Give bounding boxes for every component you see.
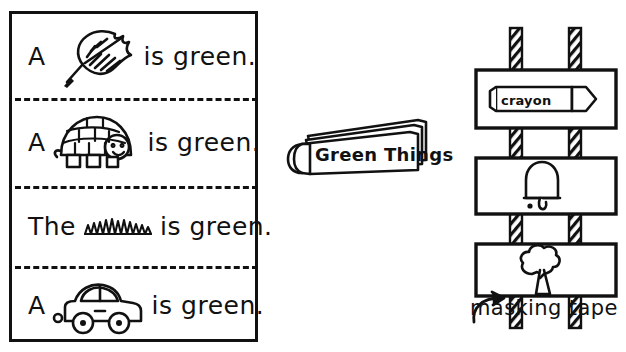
masking-tape-label: masking tape	[470, 296, 618, 320]
sentence-tail-words: is green.	[148, 130, 261, 155]
sentence-strip-panel: A	[9, 11, 258, 342]
turtle-icon	[53, 109, 141, 175]
leaf-icon	[53, 24, 137, 88]
sentence-lead-word: A	[28, 130, 46, 155]
sentence-line: The is green.	[12, 214, 255, 239]
sentence-strip-row[interactable]: The is green.	[12, 186, 255, 266]
sentence-strip-row[interactable]: A	[12, 266, 255, 345]
sentence-tail-words: is green.	[152, 293, 265, 318]
sentence-tail-words: is green.	[160, 214, 273, 239]
worksheet-canvas: A	[0, 0, 626, 352]
sentence-strip-row[interactable]: A	[12, 98, 255, 186]
sentence-lead-word: A	[28, 293, 46, 318]
crayon-icon: crayon	[490, 87, 596, 111]
sentence-lead-word: The	[28, 214, 76, 239]
crayon-label: crayon	[501, 93, 551, 108]
rack-card-crayon: crayon	[476, 70, 616, 128]
sentence-strip-row[interactable]: A	[12, 14, 255, 98]
book-cover-title: Green Things	[315, 144, 453, 165]
car-icon	[53, 277, 145, 335]
book-illustration: Green Things	[286, 112, 432, 184]
rack-card-tree	[476, 244, 616, 296]
sentence-lead-word: A	[28, 44, 46, 69]
sentence-line: A	[12, 277, 255, 335]
sentence-tail-words: is green.	[144, 44, 257, 69]
grass-icon	[83, 214, 153, 238]
sentence-line: A	[12, 24, 255, 88]
rack-card-bell	[476, 158, 616, 214]
sentence-line: A	[12, 109, 255, 175]
